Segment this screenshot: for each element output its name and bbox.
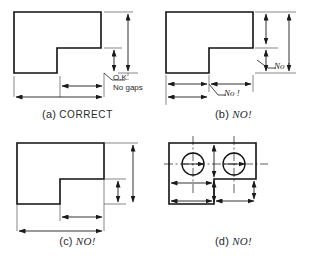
object-outline: [14, 12, 101, 73]
no-note-right: No !: [274, 61, 290, 71]
dimensioning-figure: O.K. No gaps (a) CORRECT: [0, 0, 311, 262]
caption-a-verdict: CORRECT: [59, 109, 113, 120]
panel-c-no: (c) NO!: [0, 131, 155, 262]
ok-note: O.K. No gaps: [113, 73, 143, 93]
caption-d-verdict: NO!: [232, 235, 252, 247]
panel-d-no: (d) NO!: [156, 131, 311, 262]
caption-c: (c) NO!: [0, 235, 155, 247]
object-outline: [166, 12, 253, 73]
caption-d-index: (d): [215, 235, 229, 247]
object-outline: [169, 143, 256, 204]
caption-d: (d) NO!: [156, 235, 311, 247]
no-note-bottom: No !: [224, 88, 240, 98]
panel-b-no: No ! No ! (b) NO!: [156, 0, 311, 131]
caption-c-verdict: NO!: [76, 235, 96, 247]
caption-a: (a) CORRECT: [0, 108, 155, 120]
caption-a-index: (a): [42, 108, 56, 120]
caption-b-index: (b): [215, 108, 229, 120]
panel-a-correct: O.K. No gaps (a) CORRECT: [0, 0, 155, 131]
caption-c-index: (c): [59, 235, 72, 247]
caption-b: (b) NO!: [156, 108, 311, 120]
object-outline: [17, 143, 104, 204]
caption-b-verdict: NO!: [232, 108, 252, 120]
ok-note-line2: No gaps: [113, 83, 143, 93]
ok-note-line1: O.K.: [113, 73, 143, 83]
